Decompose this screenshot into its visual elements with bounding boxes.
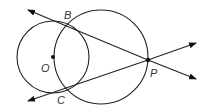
circle-bcp: [54, 10, 148, 104]
line-pc-upper: [148, 43, 196, 60]
point-p: [146, 58, 150, 62]
label-b: B: [64, 9, 71, 21]
label-o: O: [41, 62, 50, 74]
label-c: C: [57, 94, 65, 106]
label-p: P: [150, 67, 158, 79]
geometry-diagram: B O C P: [0, 0, 209, 110]
line-pb-upper: [28, 10, 148, 60]
point-o: [51, 55, 55, 59]
